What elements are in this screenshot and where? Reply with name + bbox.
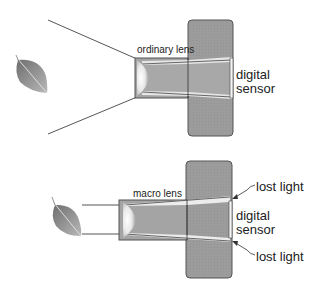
- lost-light-label-bottom: lost light: [256, 249, 304, 264]
- lost-light-label-top: lost light: [256, 179, 304, 194]
- camera-body: [186, 161, 232, 278]
- macro-lens-label: macro lens: [133, 189, 182, 199]
- arrow-icon: [232, 194, 238, 199]
- field-of-view-line-top: [48, 20, 137, 59]
- lens-comparison-diagram: ordinary lens digital sensor macro lens …: [0, 0, 311, 291]
- ordinary-lens-label: ordinary lens: [137, 45, 194, 55]
- digital-sensor: [229, 201, 232, 238]
- digital-sensor-label-line2: sensor: [236, 81, 275, 96]
- digital-sensor-label-line2: sensor: [236, 222, 275, 237]
- macro-lens-diagram: [52, 161, 255, 278]
- field-of-view-line-bottom: [48, 97, 137, 134]
- arrow-icon: [232, 241, 238, 246]
- leaf-icon: [52, 197, 81, 236]
- digital-sensor-label-line1: digital: [236, 208, 270, 223]
- ordinary-lens-diagram: [16, 20, 233, 136]
- digital-sensor-label-line1: digital: [236, 67, 270, 82]
- leaf-icon: [16, 55, 47, 93]
- digital-sensor: [230, 58, 233, 98]
